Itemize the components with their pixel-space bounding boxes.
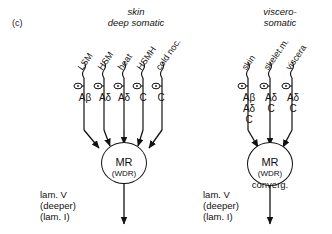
figure-panel-c: (c) skin deep somatic LSM HSM heat HSMH …	[0, 0, 332, 234]
right-fiber-label-1-1: C	[262, 103, 280, 114]
right-soma-extra: converg.	[248, 179, 292, 190]
right-fiber-label-2-0: Aδ	[284, 92, 302, 103]
right-lamina-line2: (deeper)	[203, 200, 239, 212]
right-fiber-label-2-1: C	[284, 103, 302, 114]
right-fiber-label-1-0: Aδ	[262, 92, 280, 103]
right-fiber-label-0-0: Aβ	[240, 92, 258, 103]
right-soma: MR (WDR) converg.	[247, 142, 293, 186]
right-soma-subtype: (WDR)	[248, 169, 292, 178]
right-fiber-label-0-2: C	[240, 114, 258, 125]
right-fiber-label-0-1: Aδ	[240, 103, 258, 114]
right-lamina-line3: (lam. I)	[203, 211, 233, 223]
right-axons-svg	[0, 0, 332, 234]
receptor-ending-icon-group-right	[238, 83, 292, 89]
right-lamina-line1: lam. V	[203, 189, 230, 201]
right-soma-name: MR	[248, 156, 292, 168]
